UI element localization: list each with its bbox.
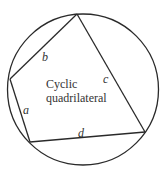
side-d	[30, 132, 145, 142]
title-line-2: quadrilateral	[46, 91, 107, 105]
side-b-label: b	[42, 50, 48, 64]
side-b	[10, 14, 77, 79]
cyclic-quadrilateral-diagram: b c a d Cyclic quadrilateral	[0, 0, 166, 174]
side-a-label: a	[23, 103, 29, 117]
side-c-label: c	[103, 72, 109, 86]
side-d-label: d	[78, 126, 85, 140]
side-c	[77, 14, 145, 132]
title-line-1: Cyclic	[46, 77, 77, 91]
